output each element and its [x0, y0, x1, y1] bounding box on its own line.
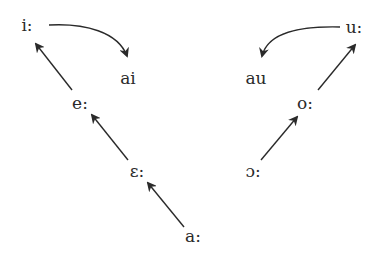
node-o-long: o: [297, 95, 313, 112]
node-ai: ai [120, 70, 136, 87]
arrow-i-to-ai [49, 25, 127, 56]
vowel-shift-diagram: i: ai e: ɛ: a: u: au o: ɔ: [0, 0, 382, 257]
arrow-o-to-u [318, 45, 355, 90]
node-i-long: i: [21, 17, 32, 34]
arrow-epsilon-to-e [92, 115, 128, 160]
arrow-open-o-to-o [261, 117, 297, 160]
node-u-long: u: [346, 19, 363, 36]
node-au: au [245, 70, 266, 87]
arrow-u-to-au [262, 27, 340, 56]
arrow-a-to-epsilon [148, 183, 184, 227]
arrow-layer [0, 0, 382, 257]
node-e-long: e: [72, 95, 88, 112]
arrow-e-to-i [36, 44, 72, 90]
node-epsilon-long: ɛ: [130, 163, 145, 180]
node-open-o-long: ɔ: [245, 163, 260, 180]
node-a-long: a: [185, 228, 201, 245]
